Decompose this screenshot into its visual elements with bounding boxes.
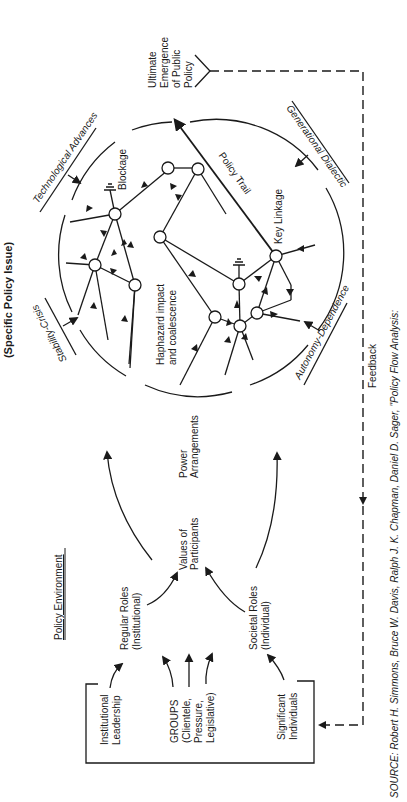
regular-roles-line2: (Institutional): [131, 593, 142, 650]
values-line2: Participants: [189, 518, 200, 570]
groups-line1: GROUPS: [169, 699, 180, 743]
significant-individuals-line1: Significant: [276, 694, 287, 740]
groups-line2: (Clientele,: [181, 698, 192, 743]
node: [129, 279, 141, 291]
technological-advances-label: Technological Advances: [31, 110, 100, 205]
node: [251, 307, 263, 319]
power-arrangements-line2: Arrangements: [189, 415, 200, 478]
stability-crisis-label: Stability-Crisis: [29, 303, 68, 364]
node: [162, 162, 174, 174]
key-linkage-label: Key Linkage: [273, 189, 284, 244]
policy-trail-line: [175, 120, 276, 256]
node: [233, 278, 245, 290]
outcome-line3: of Public: [171, 50, 182, 88]
groups-line4: Legislative): [205, 692, 216, 743]
node: [234, 320, 246, 332]
node: [154, 231, 166, 243]
feedback-arrow-icon: [359, 497, 367, 505]
institutional-leadership-line1: Institutional: [99, 694, 110, 745]
policy-trail-label: Policy Trail: [216, 150, 253, 196]
haphazard-label-line2: and coalescence: [167, 290, 178, 365]
outcome-funnel: [195, 55, 210, 87]
feedback-label: Feedback: [367, 343, 378, 388]
outcome-line4: Policy: [183, 61, 194, 88]
source-citation: SOURCE: Robert H. Simmons, Bruce W. Davi…: [389, 310, 400, 798]
regular-roles-line1: Regular Roles: [119, 587, 130, 650]
outcome-line1: Ultimate: [147, 51, 158, 88]
policy-environment-heading: Policy Environment: [53, 554, 64, 640]
ground-icon: [104, 184, 245, 265]
node: [109, 208, 121, 220]
societal-roles-line2: (Individual): [260, 601, 271, 650]
node: [192, 163, 204, 175]
outcome-line2: Emergence: [159, 36, 170, 88]
groups-line3: Pressure,: [193, 700, 204, 743]
key-linkage-node: [270, 250, 282, 262]
node: [209, 311, 221, 323]
significant-individuals-line2: Individuals: [288, 693, 299, 740]
haphazard-label-line1: Haphazard impact: [155, 284, 166, 365]
policy-environment: Policy Environment Power Arrangements Va…: [53, 415, 314, 763]
institutional-leadership-line2: Leadership: [111, 695, 122, 745]
power-arrangements-line1: Power: [178, 449, 189, 478]
blockage-label: Blockage: [117, 148, 128, 190]
technological-advances: Technological Advances: [31, 110, 100, 212]
values-line1: Values of: [178, 529, 189, 570]
diagram-title: (Specific Policy Issue): [2, 242, 14, 358]
autonomy-dependence: Autonomy-Dependence: [292, 283, 352, 385]
ultimate-emergence: Ultimate Emergence of Public Policy: [147, 36, 210, 88]
policy-flow-diagram: (Specific Policy Issue): [0, 0, 407, 802]
autonomy-dependence-label: Autonomy-Dependence: [292, 283, 352, 382]
node: [89, 259, 101, 271]
societal-roles-line1: Societal Roles: [248, 586, 259, 650]
